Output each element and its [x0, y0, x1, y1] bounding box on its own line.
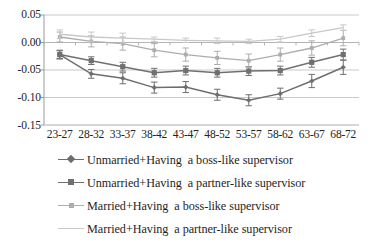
legend-label: Unmarried+Having a boss-like supervisor: [87, 154, 293, 167]
y-tick-label: -0.05: [3, 64, 41, 76]
legend-key-square-small-icon: [58, 200, 84, 212]
diamond-marker-icon: [67, 155, 75, 163]
series-4: [57, 25, 347, 44]
data-point-square: [278, 68, 283, 73]
data-point-square-small: [278, 53, 282, 57]
data-point-square: [183, 68, 188, 73]
data-point-square-small: [152, 48, 156, 52]
legend-item-married-boss[interactable]: Married+Having a boss-like supervisor: [58, 195, 279, 217]
data-point-square-small: [215, 56, 219, 60]
y-axis-tick-labels: 0.05 0.00 -0.05 -0.10 -0.15: [0, 0, 41, 150]
legend-label: Married+Having a partner-like supervisor: [87, 223, 292, 236]
y-tick-label: 0.00: [3, 37, 41, 49]
legend-key-line-icon: [58, 223, 84, 235]
data-point-diamond: [183, 84, 188, 89]
x-tick-label: 23-27: [47, 127, 73, 141]
x-tick-label: 53-57: [236, 127, 262, 141]
data-point-square: [152, 70, 157, 75]
legend-item-unmarried-boss[interactable]: Unmarried+Having a boss-like supervisor: [58, 149, 293, 171]
y-tick-label: -0.15: [3, 120, 41, 132]
data-point-square-small: [310, 46, 314, 50]
chart-container: 0.05 0.00 -0.05 -0.10 -0.15 23-2728-3233…: [0, 0, 370, 242]
data-point-diamond: [215, 92, 220, 97]
legend-item-married-partner[interactable]: Married+Having a partner-like supervisor: [58, 218, 292, 240]
data-point-square: [89, 58, 94, 63]
y-tick-label: 0.05: [3, 9, 41, 21]
legend-key-square-icon: [58, 177, 84, 189]
x-tick-label: 48-52: [204, 127, 230, 141]
legend-line: [58, 228, 84, 229]
data-point-square-small: [247, 59, 251, 63]
data-point-square: [246, 69, 251, 74]
x-tick-label: 33-37: [110, 127, 136, 141]
data-point-diamond: [309, 78, 314, 83]
chart-legend: Unmarried+Having a boss-like supervisor …: [0, 148, 370, 242]
data-point-square: [57, 52, 62, 57]
x-tick-label: 63-67: [299, 127, 325, 141]
data-point-diamond: [341, 65, 346, 70]
data-point-square: [341, 52, 346, 57]
x-tick-label: 68-72: [330, 127, 356, 141]
square-marker-icon: [68, 179, 74, 185]
data-point-diamond: [246, 98, 251, 103]
series-line: [60, 28, 344, 42]
series-2: [57, 49, 347, 77]
data-point-diamond: [278, 91, 283, 96]
series-line: [60, 55, 344, 101]
x-tick-label: 43-47: [173, 127, 199, 141]
x-axis-tick-labels: 23-2728-3233-3738-4243-4748-5253-5758-62…: [44, 127, 359, 145]
data-point-square: [215, 70, 220, 75]
data-point-square: [120, 64, 125, 69]
x-tick-label: 28-32: [78, 127, 104, 141]
data-point-square: [309, 60, 314, 65]
legend-item-unmarried-partner[interactable]: Unmarried+Having a partner-like supervis…: [58, 172, 305, 194]
x-tick-label: 38-42: [141, 127, 167, 141]
legend-key-diamond-icon: [58, 154, 84, 166]
legend-label: Unmarried+Having a partner-like supervis…: [87, 177, 305, 190]
data-point-diamond: [152, 85, 157, 90]
x-tick-label: 58-62: [267, 127, 293, 141]
data-point-square-small: [341, 36, 345, 40]
y-tick-label: -0.10: [3, 92, 41, 104]
data-point-square-small: [184, 53, 188, 57]
data-point-diamond: [120, 76, 125, 81]
square-small-marker-icon: [69, 203, 74, 208]
legend-label: Married+Having a boss-like supervisor: [87, 200, 279, 213]
